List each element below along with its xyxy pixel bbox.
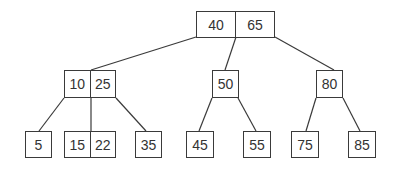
leaf-node-45: 45 <box>186 131 214 158</box>
leaf-node-55: 55 <box>243 131 271 158</box>
key-cell: 65 <box>236 11 275 38</box>
tree-edge <box>116 98 146 131</box>
key-cell: 25 <box>91 70 117 98</box>
root-node: 40 65 <box>196 11 275 38</box>
internal-node-10-25: 10 25 <box>64 70 116 98</box>
key-cell: 45 <box>186 131 214 158</box>
key-cell: 40 <box>196 11 236 38</box>
tree-edge <box>225 37 236 70</box>
key-cell: 80 <box>316 70 343 98</box>
internal-node-80: 80 <box>316 70 343 98</box>
tree-edge <box>91 37 196 70</box>
key-cell: 75 <box>291 131 319 158</box>
key-cell: 10 <box>64 70 91 98</box>
leaf-node-75: 75 <box>291 131 319 158</box>
b-tree-diagram: 40 65 10 25 50 80 5 15 22 35 45 55 75 85 <box>0 0 401 171</box>
tree-edge <box>275 37 334 70</box>
key-cell: 5 <box>25 131 52 158</box>
leaf-node-5: 5 <box>25 131 52 158</box>
leaf-node-15-22: 15 22 <box>64 131 116 158</box>
key-cell: 22 <box>91 131 117 158</box>
key-cell: 15 <box>64 131 91 158</box>
leaf-node-35: 35 <box>135 131 162 158</box>
tree-edge <box>343 98 360 131</box>
key-cell: 50 <box>212 70 239 98</box>
leaf-node-85: 85 <box>348 131 376 158</box>
tree-edge <box>238 98 256 131</box>
key-cell: 55 <box>243 131 271 158</box>
tree-edge <box>199 98 212 131</box>
tree-edge <box>39 98 64 131</box>
key-cell: 85 <box>348 131 376 158</box>
key-cell: 35 <box>135 131 162 158</box>
tree-edge <box>306 98 316 131</box>
internal-node-50: 50 <box>212 70 239 98</box>
